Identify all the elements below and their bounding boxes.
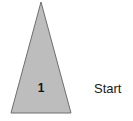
triangle-number-label: 1 xyxy=(30,82,52,95)
isosceles-triangle-icon[interactable] xyxy=(11,2,71,113)
start-caption-label: Start xyxy=(94,81,121,96)
diagram-canvas: 1 Start xyxy=(0,0,133,121)
triangle-shape-layer xyxy=(0,0,133,121)
